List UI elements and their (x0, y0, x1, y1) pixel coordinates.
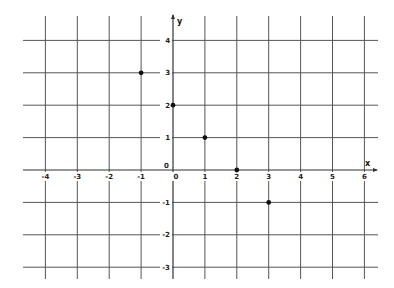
horizontal-gridlines (23, 40, 378, 267)
y-axis-label: y (177, 17, 183, 26)
coordinate-plane: -4-3-2-10123456 -3-2-11234 x y 0 (0, 0, 394, 288)
x-axis-label: x (365, 159, 371, 168)
origin-label: 0 (164, 162, 169, 170)
x-tick-label: 3 (266, 173, 271, 181)
data-point (234, 168, 239, 173)
y-tick-label: 2 (165, 102, 170, 110)
x-tick-labels: -4-3-2-10123456 (40, 172, 369, 181)
y-axis-arrow-icon (171, 14, 175, 19)
y-tick-label: -1 (162, 199, 170, 207)
x-tick-label: 2 (234, 173, 239, 181)
x-tick-label: 4 (298, 173, 303, 181)
y-tick-label: -3 (162, 264, 170, 272)
y-tick-label: 4 (165, 37, 170, 45)
x-axis-arrow-icon (373, 168, 378, 172)
y-tick-labels: -3-2-11234 (160, 36, 172, 271)
y-tick-label: 3 (165, 69, 170, 77)
y-tick-label: 1 (165, 134, 170, 142)
x-tick-label: -3 (73, 173, 81, 181)
x-tick-label: 1 (202, 173, 207, 181)
data-point (266, 200, 271, 205)
data-point (139, 70, 144, 75)
x-tick-label: -2 (105, 173, 113, 181)
axes (23, 14, 378, 279)
x-tick-label: -1 (137, 173, 145, 181)
x-tick-label: -4 (42, 173, 50, 181)
data-point (171, 103, 176, 108)
x-tick-label: 5 (330, 173, 335, 181)
y-tick-label: -2 (162, 231, 170, 239)
vertical-gridlines (45, 16, 364, 279)
x-tick-label: 6 (362, 173, 367, 181)
x-tick-label: 0 (174, 173, 179, 181)
data-point (203, 135, 208, 140)
